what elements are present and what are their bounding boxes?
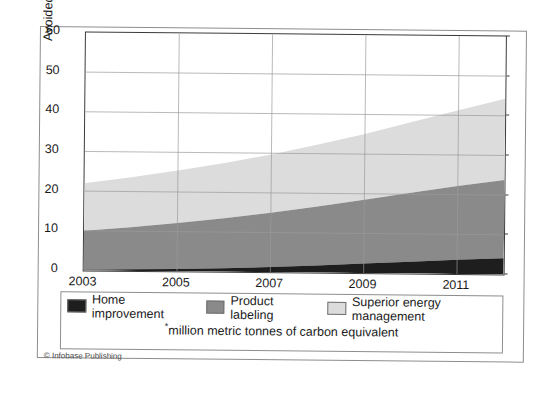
x-axis-tick-label: 2005 [162,275,190,289]
y-axis-tick-label: 40 [19,102,59,116]
y-axis-tick-label: 30 [19,142,59,156]
x-axis-tick-label: 2003 [69,274,97,288]
page-bottom-cutoff-text [118,386,448,393]
chart-frame: Avoided Carbon Emissions (mmtce*) 605040… [37,26,527,363]
legend-item-label: Home improvement [92,292,187,321]
x-axis-tick-label: 2011 [442,278,469,292]
legend-swatch-icon [327,302,346,315]
legend-swatch-icon [206,301,225,314]
scanned-page: Avoided Carbon Emissions (mmtce*) 605040… [0,0,533,393]
legend-item-label: Superior energy management [352,295,497,324]
y-axis-tick-label: 10 [18,221,58,235]
y-axis-tick-label: 20 [18,181,58,195]
copyright-notice: © Infobase Publishing [44,351,122,361]
gridline-horizontal [86,72,506,76]
legend-item[interactable]: Home improvement [67,292,187,321]
footnote-text: million metric tonnes of carbon equivale… [168,323,398,339]
stacked-area-svg [84,32,506,274]
legend-items-row: Home improvementProduct labelingSuperior… [61,292,502,323]
x-axis-tick-label: 2007 [255,276,283,290]
x-axis-tick-label: 2009 [349,277,377,291]
gridline-horizontal [85,112,505,116]
legend-swatch-icon [67,299,86,312]
legend-item[interactable]: Superior energy management [327,294,496,324]
legend-item[interactable]: Product labeling [206,293,309,322]
chart-legend: Home improvementProduct labelingSuperior… [60,291,504,353]
y-axis-tick-label: 60 [20,23,60,37]
plot-area [83,31,507,275]
y-axis-tick-label: 0 [18,261,58,275]
y-axis-tick-label: 50 [20,62,60,76]
legend-item-label: Product labeling [230,293,308,322]
